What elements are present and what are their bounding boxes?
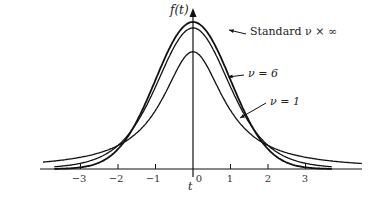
x-tick-label: 3 bbox=[302, 173, 308, 184]
y-axis-arrow bbox=[190, 8, 197, 17]
x-tick-label: 2 bbox=[265, 173, 271, 184]
x-tick-label: −1 bbox=[146, 173, 161, 184]
annotation-v1: ν = 1 bbox=[270, 95, 300, 108]
x-axis-label: t bbox=[188, 180, 192, 193]
annotation-v6: ν = 6 bbox=[248, 67, 278, 80]
curve-t-v1 bbox=[43, 52, 362, 164]
y-axis-label: f(t) bbox=[170, 3, 189, 17]
x-tick-label: 1 bbox=[227, 173, 233, 184]
annotation-standard: Standard ν × ∞ bbox=[250, 25, 337, 38]
x-tick-label: −2 bbox=[109, 173, 124, 184]
x-tick-label: −3 bbox=[72, 173, 87, 184]
x-tick-label: 0 bbox=[196, 173, 202, 184]
